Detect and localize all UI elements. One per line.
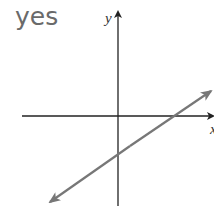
y-axis-label: y — [103, 10, 112, 26]
x-axis-label: x — [209, 121, 214, 137]
graph-line — [130, 91, 211, 146]
coordinate-graph: y x — [0, 0, 214, 207]
